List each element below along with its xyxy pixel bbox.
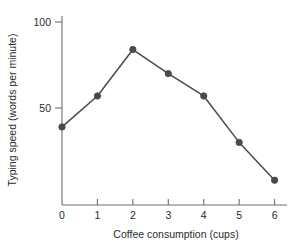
data-point — [236, 139, 242, 145]
data-point-markers — [59, 46, 278, 183]
data-point — [130, 46, 136, 52]
x-tick-label-3: 3 — [165, 209, 171, 221]
y-tick-label-50: 50 — [39, 102, 51, 114]
line-chart: 50100 0123456 Coffee consumption (cups) … — [0, 0, 295, 250]
y-axis-ticks — [55, 22, 62, 108]
data-line — [62, 50, 275, 181]
y-tick-label-100: 100 — [33, 16, 51, 28]
x-axis-ticks — [97, 199, 274, 205]
chart-figure: 50100 0123456 Coffee consumption (cups) … — [0, 0, 295, 250]
x-axis-title: Coffee consumption (cups) — [113, 228, 238, 240]
x-tick-label-0: 0 — [59, 209, 65, 221]
y-axis-title: Typing speed (words per minute) — [6, 34, 18, 187]
data-point — [59, 124, 65, 130]
data-point — [94, 93, 100, 99]
x-tick-label-6: 6 — [272, 209, 278, 221]
x-tick-label-4: 4 — [201, 209, 207, 221]
data-point — [165, 70, 171, 76]
x-tick-label-5: 5 — [236, 209, 242, 221]
data-point — [201, 93, 207, 99]
chart-axes — [62, 16, 287, 205]
x-tick-label-1: 1 — [95, 209, 101, 221]
data-point — [271, 177, 277, 183]
x-tick-label-2: 2 — [130, 209, 136, 221]
y-axis-tick-labels: 50100 — [33, 16, 51, 114]
x-axis-tick-labels: 0123456 — [59, 209, 278, 221]
